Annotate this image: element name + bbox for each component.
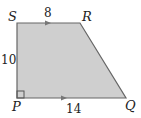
side-label-sr: 8	[44, 6, 52, 20]
trapezoid-shape	[17, 23, 126, 98]
vertex-label-s: S	[8, 9, 17, 24]
vertex-label-p: P	[11, 99, 21, 114]
side-label-sp: 10	[1, 53, 16, 67]
trapezoid-diagram: S 8 R 10 P 14 Q	[0, 0, 141, 118]
vertex-label-r: R	[81, 9, 92, 24]
vertex-label-q: Q	[125, 98, 136, 113]
side-label-pq: 14	[66, 102, 82, 116]
